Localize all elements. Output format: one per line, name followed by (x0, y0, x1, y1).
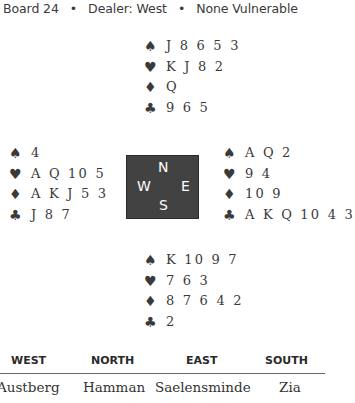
header-east: EAST (186, 354, 217, 367)
east-spades-row: ♠A Q 2 (223, 143, 355, 164)
west-diamonds-cards: A K J 5 3 (31, 184, 108, 205)
south-diamonds-cards: 8 7 6 4 2 (166, 291, 244, 312)
heart-icon: ♥ (9, 164, 31, 185)
diamond-icon: ♦ (9, 184, 31, 205)
spade-icon: ♠ (9, 143, 31, 164)
east-spades-cards: A Q 2 (245, 143, 293, 164)
players-table-header: WEST NORTH EAST SOUTH (0, 354, 330, 372)
heart-icon: ♥ (223, 164, 245, 185)
west-hearts-cards: A Q 10 5 (31, 164, 106, 185)
diamond-icon: ♦ (144, 291, 166, 312)
south-spades-row: ♠K 10 9 7 (144, 250, 244, 271)
north-diamonds-cards: Q (166, 77, 179, 98)
heart-icon: ♥ (144, 271, 166, 292)
north-spades-cards: J 8 6 5 3 (166, 36, 241, 57)
diamond-icon: ♦ (223, 184, 245, 205)
west-clubs-row: ♣J 8 7 (9, 205, 108, 226)
spade-icon: ♠ (223, 143, 245, 164)
south-clubs-cards: 2 (166, 312, 176, 333)
north-diamonds-row: ♦Q (144, 77, 241, 98)
south-diamonds-row: ♦8 7 6 4 2 (144, 291, 244, 312)
west-clubs-cards: J 8 7 (31, 205, 72, 226)
south-hearts-cards: 7 6 3 (166, 271, 210, 292)
north-hand: ♠J 8 6 5 3 ♥K J 8 2 ♦Q ♣9 6 5 (144, 36, 241, 118)
west-hand: ♠4 ♥A Q 10 5 ♦A K J 5 3 ♣J 8 7 (9, 143, 108, 225)
header-west: WEST (11, 354, 46, 367)
compass-south-label: S (159, 197, 168, 213)
club-icon: ♣ (9, 205, 31, 226)
player-south: Zia (279, 379, 301, 395)
player-west: Austberg (0, 379, 60, 395)
diamond-icon: ♦ (144, 77, 166, 98)
player-east: Saelensminde (155, 379, 251, 395)
club-icon: ♣ (144, 98, 166, 119)
north-clubs-cards: 9 6 5 (166, 98, 210, 119)
north-hearts-row: ♥K J 8 2 (144, 57, 241, 78)
compass-west-label: W (137, 178, 151, 194)
east-diamonds-row: ♦10 9 (223, 184, 355, 205)
board-info-header: Board 24•Dealer: West•None Vulnerable (3, 1, 298, 17)
club-icon: ♣ (144, 312, 166, 333)
north-clubs-row: ♣9 6 5 (144, 98, 241, 119)
club-icon: ♣ (223, 205, 245, 226)
east-hearts-cards: 9 4 (245, 164, 272, 185)
east-hand: ♠A Q 2 ♥9 4 ♦10 9 ♣A K Q 10 4 3 (223, 143, 355, 225)
south-spades-cards: K 10 9 7 (166, 250, 239, 271)
west-spades-row: ♠4 (9, 143, 108, 164)
player-north: Hamman (83, 379, 145, 395)
spade-icon: ♠ (144, 36, 166, 57)
table-divider (0, 373, 325, 374)
south-clubs-row: ♣2 (144, 312, 244, 333)
east-diamonds-cards: 10 9 (245, 184, 283, 205)
header-south: SOUTH (265, 354, 308, 367)
players-table-row: Austberg Hamman Saelensminde Zia (0, 379, 335, 399)
dealer-info: Dealer: West (88, 1, 167, 16)
west-diamonds-row: ♦A K J 5 3 (9, 184, 108, 205)
compass-box: N W E S (126, 155, 199, 219)
board-number: Board 24 (3, 1, 59, 16)
north-hearts-cards: K J 8 2 (166, 57, 225, 78)
north-spades-row: ♠J 8 6 5 3 (144, 36, 241, 57)
west-hearts-row: ♥A Q 10 5 (9, 164, 108, 185)
separator-dot: • (70, 1, 77, 16)
separator-dot: • (178, 1, 185, 16)
east-clubs-row: ♣A K Q 10 4 3 (223, 205, 355, 226)
spade-icon: ♠ (144, 250, 166, 271)
south-hand: ♠K 10 9 7 ♥7 6 3 ♦8 7 6 4 2 ♣2 (144, 250, 244, 332)
south-hearts-row: ♥7 6 3 (144, 271, 244, 292)
vulnerability-info: None Vulnerable (196, 1, 298, 16)
west-spades-cards: 4 (31, 143, 41, 164)
compass-north-label: N (158, 159, 168, 175)
east-clubs-cards: A K Q 10 4 3 (245, 205, 355, 226)
east-hearts-row: ♥9 4 (223, 164, 355, 185)
heart-icon: ♥ (144, 57, 166, 78)
compass-east-label: E (181, 178, 190, 194)
header-north: NORTH (91, 354, 134, 367)
